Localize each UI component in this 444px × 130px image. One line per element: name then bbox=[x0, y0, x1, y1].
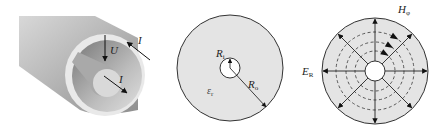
electric-field-label: ER bbox=[301, 65, 314, 79]
field-lines-panel: Hφ ER bbox=[301, 3, 428, 124]
voltage-label: U bbox=[110, 44, 119, 56]
coaxial-cable-figure: U I I Ri Ro εr Hφ ER bbox=[0, 0, 444, 130]
inner-conductor-face bbox=[93, 69, 121, 97]
field-inner-circle bbox=[365, 61, 385, 81]
magnetic-field-label: Hφ bbox=[397, 3, 410, 17]
outer-current-label: I bbox=[137, 34, 143, 46]
cross-section-panel: Ri Ro εr bbox=[177, 15, 283, 121]
coax-3d-panel: U I I bbox=[19, 16, 150, 116]
